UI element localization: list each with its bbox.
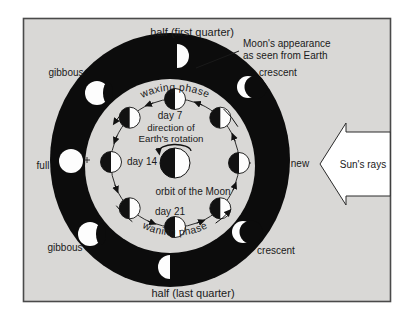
gibbous-lower-label: gibbous	[47, 242, 82, 253]
orbit-moon-ne	[210, 107, 231, 128]
bottom-title: half (last quarter)	[151, 287, 234, 299]
gibbous-upper-label: gibbous	[48, 67, 83, 78]
rotation-label-line1: direction of	[147, 122, 195, 133]
ring-moon-gibbous-upper	[85, 81, 113, 105]
day21-label: day 21	[155, 206, 185, 217]
orbit-label: orbit of the Moon	[155, 186, 230, 197]
earth	[160, 148, 190, 178]
full-label: full	[37, 160, 50, 171]
diagram-canvas: waxing phase waning phase day 7 directio…	[0, 0, 411, 320]
top-title: half (first quarter)	[150, 26, 234, 38]
orbit-moon-new-position	[229, 153, 250, 174]
sun-rays-label: Sun's rays	[340, 159, 386, 170]
ring-moon-crescent-lower	[232, 221, 263, 244]
crescent-lower-label: crescent	[257, 245, 295, 256]
annotation-line1: Moon's appearance	[243, 38, 331, 49]
day7-label: day 7	[158, 110, 183, 121]
day14-label: day 14	[127, 156, 157, 167]
moon-phases-figure: waxing phase waning phase day 7 directio…	[0, 0, 411, 320]
annotation-line2: as seen from Earth	[243, 50, 327, 61]
ring-moon-full	[59, 149, 83, 173]
orbit-moon-nw	[119, 107, 140, 128]
rotation-label-line2: Earth's rotation	[139, 133, 204, 144]
crescent-upper-label: crescent	[259, 67, 297, 78]
orbit-moon-se	[210, 198, 231, 219]
orbit-moon-sw	[119, 198, 140, 219]
orbit-moon-day14	[101, 152, 122, 173]
new-label: new	[291, 158, 310, 169]
